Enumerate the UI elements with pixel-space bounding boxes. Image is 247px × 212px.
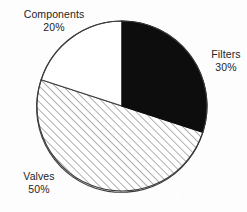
- pie-label-valves: Valves 50%: [14, 170, 64, 195]
- pie-label-filters-value: 30%: [206, 61, 246, 74]
- pie-label-valves-name: Valves: [14, 170, 64, 183]
- pie-label-components-value: 20%: [13, 21, 95, 34]
- pie-label-filters-name: Filters: [206, 48, 246, 61]
- pie-chart-figure: Components 20% Filters 30% Valves 50%: [0, 0, 247, 212]
- pie-label-components-name: Components: [13, 8, 95, 21]
- pie-label-valves-value: 50%: [14, 183, 64, 196]
- pie-label-filters: Filters 30%: [206, 48, 246, 73]
- pie-label-components: Components 20%: [13, 8, 95, 33]
